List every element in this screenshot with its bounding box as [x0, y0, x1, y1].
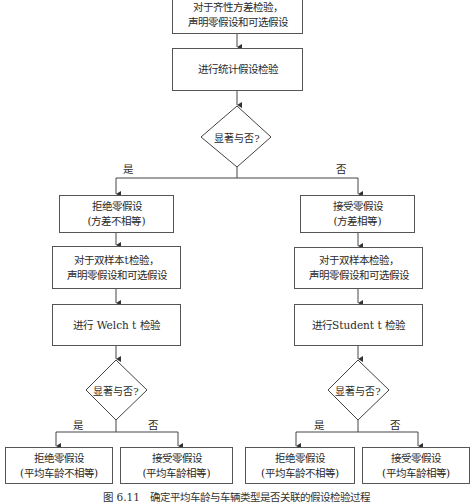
- right-yes-label: 是: [314, 417, 324, 432]
- box-text-line1: 对于双样本检验，: [319, 253, 399, 268]
- decision-text: 显著与否?: [93, 386, 138, 397]
- main-decision-diamond: 显著与否?: [201, 130, 273, 145]
- reject-null-variance-box: 拒绝零假设 (方差不相等): [59, 195, 174, 233]
- box-text: 进行 Welch t 检验: [73, 318, 159, 333]
- box-text-line2: (平均车龄不相等): [20, 466, 98, 481]
- box-text-line2: 声明零假设和可选假设: [309, 268, 409, 283]
- box-text-line1: 对于双样本t检验，: [74, 253, 158, 268]
- box-text-line1: 拒绝零假设: [92, 199, 142, 214]
- box-text-line2: 声明零假设和可选假设: [67, 268, 167, 283]
- box-text: 进行Student t 检验: [312, 318, 405, 333]
- box-text-line1: 接受零假设: [152, 451, 202, 466]
- box-text-line1: 接受零假设: [391, 451, 441, 466]
- box-text-line2: (平均车龄相等): [382, 466, 450, 481]
- box-text-line2: (方差不相等): [87, 214, 145, 229]
- declare-variance-hypothesis-box: 对于齐性方差检验， 声明零假设和可选假设: [172, 0, 303, 34]
- branch-no-label: 否: [336, 161, 346, 176]
- left-yes-label: 是: [73, 417, 83, 432]
- left-decision-diamond: 显著与否?: [84, 383, 148, 398]
- left-no-label: 否: [148, 417, 158, 432]
- box-text-line1: 拒绝零假设: [34, 451, 84, 466]
- box-text-line2: (方差相等): [333, 214, 381, 229]
- right-decision-diamond: 显著与否?: [326, 383, 390, 398]
- declare-ttest-hypothesis-box-right: 对于双样本检验， 声明零假设和可选假设: [294, 247, 423, 289]
- box-text-line1: 接受零假设: [333, 199, 383, 214]
- right-outcome-accept-box: 接受零假设 (平均车龄相等): [362, 447, 470, 484]
- left-outcome-reject-box: 拒绝零假设 (平均车龄不相等): [5, 447, 113, 484]
- branch-yes-label: 是: [123, 161, 133, 176]
- box-text-line2: 声明零假设和可选假设: [188, 15, 288, 30]
- decision-text: 显著与否?: [214, 133, 259, 144]
- decision-text: 显著与否?: [335, 386, 380, 397]
- student-ttest-box: 进行Student t 检验: [294, 304, 423, 346]
- figure-caption: 图 6.11 确定平均车龄与车辆类型是否关联的假设检验过程: [0, 489, 473, 504]
- perform-statistical-test-box: 进行统计假设检验: [172, 48, 303, 91]
- box-text-line1: 对于齐性方差检验，: [193, 0, 283, 15]
- accept-null-variance-box: 接受零假设 (方差相等): [300, 195, 415, 233]
- box-text: 进行统计假设检验: [198, 62, 278, 77]
- box-text-line2: (平均车龄相等): [142, 466, 210, 481]
- right-outcome-reject-box: 拒绝零假设 (平均车龄不相等): [245, 447, 355, 484]
- left-outcome-accept-box: 接受零假设 (平均车龄相等): [120, 447, 233, 484]
- box-text-line1: 拒绝零假设: [275, 451, 325, 466]
- box-text-line2: (平均车龄不相等): [261, 466, 339, 481]
- right-no-label: 否: [390, 417, 400, 432]
- declare-ttest-hypothesis-box-left: 对于双样本t检验， 声明零假设和可选假设: [52, 246, 181, 289]
- welch-ttest-box: 进行 Welch t 检验: [52, 304, 181, 346]
